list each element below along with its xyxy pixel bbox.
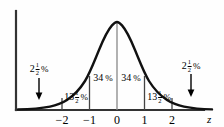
region-label-left-outer: 1312%	[64, 90, 88, 104]
region-label-right-inner: 34%	[121, 73, 141, 83]
left-outer-fraction: 12	[75, 90, 79, 104]
region-label-right-outer: 1312%	[147, 90, 171, 104]
region-label-left-tail: 212%	[30, 62, 49, 76]
left-inner-whole: 34	[93, 73, 103, 83]
region-label-left-inner: 34%	[93, 73, 113, 83]
right-outer-fraction: 12	[158, 90, 162, 104]
left-outer-whole: 13	[64, 92, 74, 102]
x-tick-label-2: 2	[169, 114, 175, 126]
left-tail-fraction: 12	[35, 62, 39, 76]
left-tail-percent-sign: %	[41, 65, 49, 74]
x-tick-label-minus-2: −2	[56, 114, 69, 126]
left-tail-whole: 2	[30, 64, 35, 74]
x-tick-label-minus-1: −1	[83, 114, 96, 126]
left-tail-arrow-icon	[36, 78, 43, 100]
x-tick-label-1: 1	[142, 114, 148, 126]
right-tail-fraction: 12	[187, 59, 191, 73]
x-tick-label-0: 0	[114, 114, 120, 126]
right-inner-percent-sign: %	[133, 74, 141, 83]
left-outer-percent-sign: %	[80, 93, 88, 102]
region-label-right-tail: 212%	[182, 59, 201, 73]
right-outer-percent-sign: %	[163, 93, 171, 102]
right-tail-whole: 2	[182, 61, 187, 71]
x-axis-name-label: z	[207, 114, 211, 125]
right-inner-whole: 34	[121, 73, 131, 83]
left-inner-percent-sign: %	[105, 74, 113, 83]
normal-distribution-figure: 212% 1312% 34% 34% 1312% 212% −2 −1 0 1 …	[0, 0, 224, 127]
right-tail-percent-sign: %	[193, 62, 201, 71]
right-outer-whole: 13	[147, 92, 157, 102]
right-tail-arrow-icon	[188, 74, 195, 97]
